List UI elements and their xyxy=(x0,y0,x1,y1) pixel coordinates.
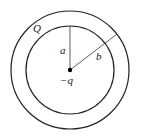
label-outer-radius: b xyxy=(96,50,102,62)
center-charge-dot xyxy=(68,68,72,72)
label-center-charge: −q xyxy=(60,74,73,86)
label-inner-radius: a xyxy=(60,44,66,56)
label-shell-charge: Q xyxy=(33,22,41,34)
shell-diagram: Q a b −q xyxy=(0,0,141,139)
